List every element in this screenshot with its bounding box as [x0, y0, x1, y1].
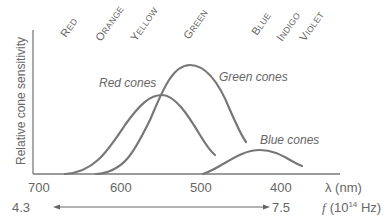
blue-cones-label: Blue cones: [260, 133, 319, 147]
red-cones-curve: [65, 95, 215, 174]
y-axis-label: Relative cone sensitivity: [14, 37, 28, 165]
arrow-right-icon: [263, 205, 270, 210]
frequency-unit-label: f(1014 Hz): [322, 200, 381, 215]
tick-600: 600: [110, 180, 132, 195]
wavelength-unit-label: λ (nm): [325, 180, 362, 195]
color-band-labels: RED ORANGE YELLOW GREEN BLUE INDIGO VIOL…: [58, 3, 326, 43]
freq-left-label: 4.3: [12, 200, 30, 215]
color-label-red: RED: [58, 15, 80, 39]
green-cones-label: Green cones: [219, 70, 288, 84]
color-label-yellow: YELLOW: [128, 4, 160, 43]
frequency-arrow: [53, 205, 270, 210]
blue-cones-curve: [203, 150, 302, 174]
tick-500: 500: [190, 180, 212, 195]
color-label-orange: ORANGE: [93, 3, 126, 43]
tick-400: 400: [270, 180, 292, 195]
red-cones-label: Red cones: [99, 76, 156, 90]
arrow-left-icon: [53, 205, 60, 210]
cone-sensitivity-chart: Relative cone sensitivity RED ORANGE YEL…: [0, 0, 387, 223]
tick-700: 700: [28, 180, 50, 195]
color-label-blue: BLUE: [249, 10, 273, 37]
freq-right-label: 7.5: [272, 200, 290, 215]
color-label-violet: VIOLET: [297, 9, 326, 43]
color-label-green: GREEN: [181, 7, 210, 41]
